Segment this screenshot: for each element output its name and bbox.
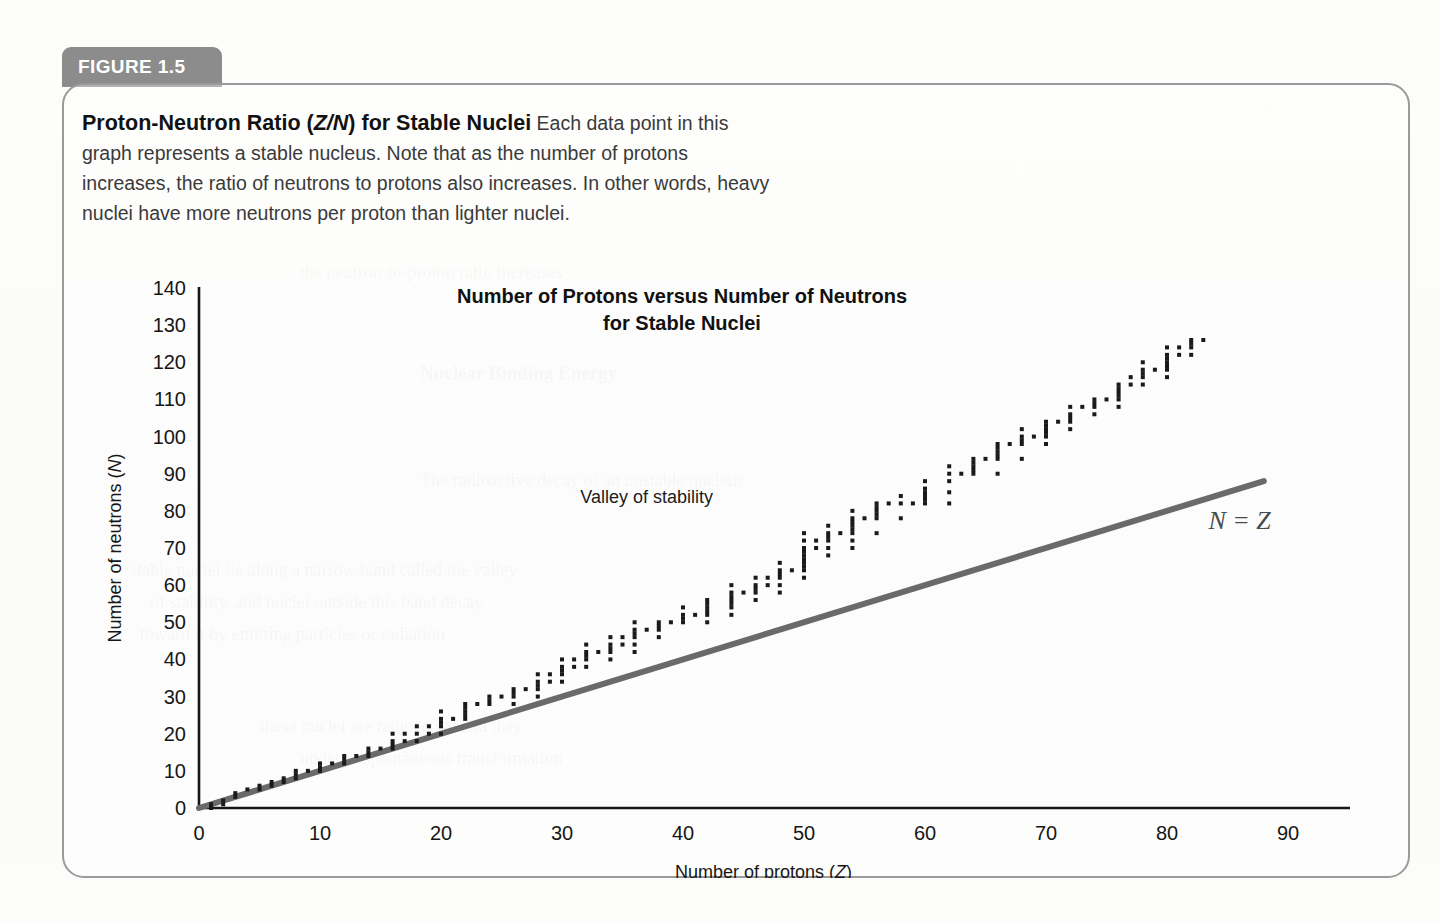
x-axis-tick-label: 60 [914,822,936,844]
data-point [802,557,806,561]
data-point [1068,412,1072,416]
data-point [705,609,709,613]
data-point [1177,353,1181,357]
data-point [1189,342,1193,346]
data-point [996,472,1000,476]
data-point [270,780,274,784]
data-point [584,657,588,661]
data-point [1068,420,1072,424]
data-point [657,624,661,628]
data-point [1189,338,1193,342]
data-point [705,613,709,617]
data-point [258,787,262,791]
data-point [826,553,830,557]
data-point [608,650,612,654]
data-point [342,754,346,758]
data-point [536,680,540,684]
data-point [669,620,673,624]
data-point [645,628,649,632]
data-point [899,516,903,520]
scatter-plot: 0102030405060708090100110120130140010203… [62,83,1410,878]
data-point [1201,338,1205,342]
data-point [415,739,419,743]
data-point [487,698,491,702]
data-point [282,776,286,780]
data-point [826,539,830,543]
data-point [729,605,733,609]
y-axis-tick-label: 90 [164,463,186,485]
data-point [875,505,879,509]
data-point [572,657,576,661]
data-point [1117,383,1121,387]
data-point [657,635,661,639]
data-point [1044,427,1048,431]
data-point [971,457,975,461]
data-point [1092,401,1096,405]
data-point [802,568,806,572]
data-point-group [209,338,1205,810]
data-point [403,739,407,743]
data-point [463,709,467,713]
data-point [209,802,213,806]
y-axis-tick-label: 110 [154,388,186,410]
data-point [947,490,951,494]
data-point [536,683,540,687]
data-point [802,539,806,543]
data-point [621,635,625,639]
data-point [850,527,854,531]
data-point [487,702,491,706]
data-point [415,724,419,728]
data-point [1165,360,1169,364]
data-point [294,769,298,773]
data-point [1165,357,1169,361]
data-point [850,546,854,550]
data-point [778,561,782,565]
figure-number-tab: FIGURE 1.5 [62,47,222,87]
data-point [633,631,637,635]
data-point [366,747,370,751]
data-point [318,761,322,765]
data-point [1141,360,1145,364]
data-point [911,501,915,505]
data-point [1117,405,1121,409]
data-point [282,780,286,784]
data-point [705,598,709,602]
data-point [996,449,1000,453]
data-point [826,524,830,528]
y-axis-tick-label: 50 [164,611,186,633]
data-point [1117,394,1121,398]
data-point [318,769,322,773]
data-point [1165,375,1169,379]
data-point [814,546,818,550]
data-point [826,531,830,535]
data-point [1141,375,1145,379]
data-point [621,643,625,647]
data-point [354,754,358,758]
data-point [463,702,467,706]
data-point [875,501,879,505]
data-point [391,739,395,743]
data-point [560,657,564,661]
data-point [754,576,758,580]
x-axis-title: Number of protons (Z) [675,862,852,878]
data-point [693,613,697,617]
data-point [729,613,733,617]
data-point [657,620,661,624]
y-axis-tick-label: 140 [153,277,186,299]
data-point [596,650,600,654]
data-point [1020,427,1024,431]
y-axis-tick-label: 100 [153,426,186,448]
data-point [1080,405,1084,409]
data-point [1020,438,1024,442]
data-point [875,531,879,535]
data-point [1165,368,1169,372]
data-point [681,613,685,617]
y-axis-tick-label: 120 [153,351,186,373]
data-point [1020,442,1024,446]
data-point [584,650,588,654]
data-point [366,750,370,754]
data-point [814,539,818,543]
data-point [366,754,370,758]
data-point [1141,368,1145,372]
data-point [391,743,395,747]
